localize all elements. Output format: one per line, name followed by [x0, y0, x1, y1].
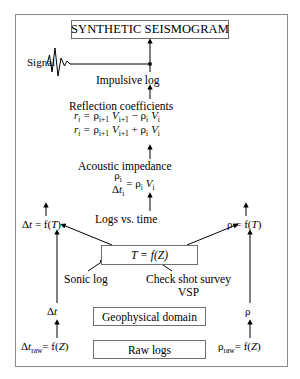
- node-raw-logs: Raw logs: [93, 340, 206, 359]
- node-synthetic-seismogram: SYNTHETIC SEISMOGRAM: [71, 20, 229, 39]
- label-delta-t-of-time: Δt = f(T): [22, 219, 61, 231]
- time-depth-formula: T = f(Z): [131, 249, 168, 261]
- formula-rc-denominator-row: ri = ρi+1Vi+1 + ρiVi: [74, 124, 160, 138]
- node-time-depth-relation: T = f(Z): [101, 245, 198, 265]
- formula-rc-denominator: ρi+1Vi+1 + ρiVi: [94, 124, 160, 138]
- formula-reflection-coefficient: ri = ρi+1Vi+1 − ρiVi ri = ρi+1Vi+1 + ρiV…: [74, 110, 160, 138]
- formula-ai-numerator: ρi: [110, 170, 126, 184]
- label-rho: ρ: [245, 306, 251, 318]
- label-impulsive-log: Impulsive log: [96, 74, 160, 86]
- label-logs-vs-time: Logs vs. time: [95, 213, 157, 225]
- formula-ai-fraction: ρi Δti: [110, 170, 126, 198]
- label-rho-raw-of-depth: ρraw= f(Z): [218, 341, 261, 355]
- label-delta-t-raw-of-depth: Δtraw= f(Z): [21, 341, 68, 355]
- formula-ai-denominator: Δti: [110, 184, 126, 198]
- formula-rc-lhs-top: ri =: [74, 110, 94, 124]
- label-delta-t: Δt: [47, 306, 57, 318]
- formula-rc-numerator: ρi+1Vi+1 − ρiVi: [94, 110, 160, 124]
- label-check-shot-survey: Check shot survey: [146, 273, 231, 285]
- formula-ai-rhs: = ρiVi: [126, 177, 154, 189]
- seismic-workflow-diagram: SYNTHETIC SEISMOGRAM T = f(Z) Geophysica…: [0, 0, 300, 379]
- label-sonic-log: Sonic log: [64, 273, 108, 285]
- formula-rc-numerator-row: ri = ρi+1Vi+1 − ρiVi: [74, 110, 160, 124]
- label-vsp: VSP: [178, 286, 199, 298]
- label-signal: Signal: [27, 57, 55, 69]
- formula-rc-lhs-bottom: ri =: [74, 124, 94, 138]
- label-rho-of-time: ρ = f(T): [227, 219, 261, 231]
- formula-acoustic-impedance: ρi Δti = ρiVi: [110, 170, 155, 198]
- node-geophysical-domain: Geophysical domain: [93, 307, 206, 326]
